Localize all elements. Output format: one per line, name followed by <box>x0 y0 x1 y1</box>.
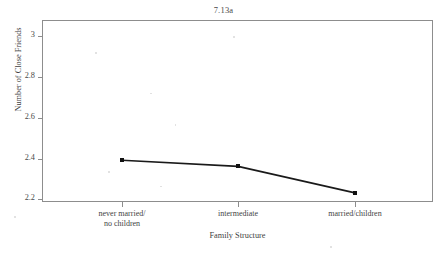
y-tick-2-2: 2.2 <box>0 199 42 200</box>
x-tick-label-1-line2: no children <box>62 219 182 229</box>
scan-speckle <box>330 246 332 248</box>
x-axis-title: Family Structure <box>42 231 433 240</box>
x-tick-label-3-line1: married/children <box>328 209 381 218</box>
y-tick-label-2-2: 2.2 <box>25 193 35 202</box>
scan-speckle <box>175 124 176 126</box>
y-tick-label-2-6: 2.6 <box>25 112 35 121</box>
x-tick-label-3: married/children <box>295 209 415 219</box>
scan-speckle <box>233 36 235 38</box>
y-tick-3: 3 <box>0 36 42 37</box>
y-tick-2-8: 2.8 <box>0 77 42 78</box>
x-tick-mark-2 <box>238 202 239 207</box>
y-tick-label-2-4: 2.4 <box>25 153 35 162</box>
scan-speckle <box>14 216 16 218</box>
chart-figure: 7.13a Number of Close Friends 3 2.8 2.6 … <box>0 0 447 254</box>
scan-speckle <box>160 186 162 187</box>
x-tick-label-2: intermediate <box>178 209 298 219</box>
y-tick-2-4: 2.4 <box>0 159 42 160</box>
x-tick-label-1-line1: never married/ <box>99 209 146 218</box>
x-tick-mark-3 <box>355 202 356 207</box>
chart-title: 7.13a <box>0 5 447 15</box>
data-point-marker <box>236 164 240 168</box>
scan-speckle <box>150 93 152 94</box>
data-point-marker <box>120 158 124 162</box>
y-tick-label-2-8: 2.8 <box>25 71 35 80</box>
data-point-marker <box>353 191 357 195</box>
scan-speckle <box>108 171 110 173</box>
plot-area <box>42 20 433 202</box>
x-tick-label-2-line1: intermediate <box>218 209 258 218</box>
y-tick-2-6: 2.6 <box>0 118 42 119</box>
scan-speckle <box>95 52 97 54</box>
y-tick-label-3: 3 <box>31 30 35 39</box>
x-tick-mark-1 <box>122 202 123 207</box>
x-tick-label-1: never married/ no children <box>62 209 182 228</box>
